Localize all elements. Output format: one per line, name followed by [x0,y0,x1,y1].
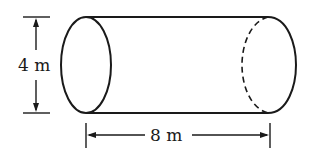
arrowhead-up-icon [33,18,39,27]
length-label: 8 m [150,125,182,145]
back-face-visible-arc [268,17,296,113]
front-face-ellipse [61,17,111,113]
back-face-hidden-arc [242,17,268,113]
height-label: 4 m [18,55,50,75]
cylinder [61,17,296,113]
arrowhead-left-icon [87,132,96,138]
arrowhead-down-icon [33,103,39,112]
cylinder-diagram: 4 m 8 m [0,0,310,161]
arrowhead-right-icon [260,132,269,138]
